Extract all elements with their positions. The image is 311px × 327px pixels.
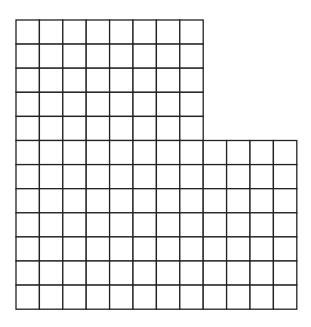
grid-cell	[63, 116, 86, 140]
grid-cell	[63, 44, 86, 68]
grid-cell	[39, 285, 62, 309]
grid-cell	[110, 92, 133, 116]
grid-cell	[16, 189, 39, 213]
grid-cell	[250, 141, 273, 165]
grid-cell	[133, 165, 156, 189]
grid-cell	[227, 261, 250, 285]
grid-cell	[250, 261, 273, 285]
grid-cell	[16, 44, 39, 68]
grid-cell	[39, 213, 62, 237]
grid-cell	[86, 116, 109, 140]
grid-cell	[39, 261, 62, 285]
grid-cell	[63, 285, 86, 309]
grid-cell	[227, 213, 250, 237]
grid-cell	[86, 92, 109, 116]
grid-cell	[133, 68, 156, 92]
grid-cell	[203, 141, 226, 165]
grid-cell	[110, 44, 133, 68]
grid-cell	[39, 92, 62, 116]
grid-cell	[227, 189, 250, 213]
grid-cell	[86, 213, 109, 237]
grid-cell	[86, 261, 109, 285]
grid-cell	[180, 285, 203, 309]
grid-cell	[63, 189, 86, 213]
grid-cell	[16, 285, 39, 309]
grid-cell	[63, 261, 86, 285]
grid-cell	[227, 237, 250, 261]
grid-cell	[133, 261, 156, 285]
grid-cell	[133, 116, 156, 140]
grid-cell	[86, 285, 109, 309]
grid-cell	[16, 116, 39, 140]
grid-cell	[156, 68, 179, 92]
grid-cell	[133, 237, 156, 261]
grid-cell	[110, 116, 133, 140]
grid-cell	[86, 237, 109, 261]
grid-cell	[203, 285, 226, 309]
grid-cell	[227, 165, 250, 189]
grid-cell	[250, 285, 273, 309]
grid-cell	[86, 20, 109, 44]
grid-cell	[273, 165, 296, 189]
grid-cell	[86, 189, 109, 213]
grid-cell	[156, 20, 179, 44]
grid-cell	[63, 20, 86, 44]
grid-cell	[16, 141, 39, 165]
grid-cell	[156, 285, 179, 309]
grid-cell	[39, 20, 62, 44]
grid-cell	[86, 68, 109, 92]
grid-cell	[86, 141, 109, 165]
grid-cell	[39, 189, 62, 213]
grid-cell	[156, 213, 179, 237]
grid-cell	[39, 68, 62, 92]
grid-cell	[133, 189, 156, 213]
grid-cell	[156, 44, 179, 68]
grid-cell	[180, 92, 203, 116]
grid-cell	[110, 189, 133, 213]
grid-cell	[180, 213, 203, 237]
grid-cell	[133, 213, 156, 237]
grid-cell	[16, 261, 39, 285]
grid-cell	[110, 68, 133, 92]
grid-cell	[156, 261, 179, 285]
grid-cell	[156, 165, 179, 189]
grid-cell	[133, 285, 156, 309]
l-shaped-grid	[0, 0, 311, 327]
grid-cell	[203, 261, 226, 285]
grid-cell	[16, 213, 39, 237]
grid-cell	[156, 189, 179, 213]
grid-cell	[133, 44, 156, 68]
grid-cell	[63, 141, 86, 165]
grid-cell	[39, 141, 62, 165]
grid-cell	[63, 68, 86, 92]
grid-cell	[203, 213, 226, 237]
top-section	[16, 20, 203, 141]
grid-cell	[250, 213, 273, 237]
grid-cell	[273, 213, 296, 237]
grid-cell	[16, 68, 39, 92]
grid-cell	[227, 141, 250, 165]
grid-cell	[39, 165, 62, 189]
grid-cell	[16, 237, 39, 261]
grid-cell	[110, 213, 133, 237]
grid-cell	[180, 237, 203, 261]
grid-cell	[16, 20, 39, 44]
grid-cell	[110, 165, 133, 189]
grid-cell	[180, 20, 203, 44]
bottom-section	[16, 141, 297, 310]
grid-cell	[180, 44, 203, 68]
grid-cell	[180, 116, 203, 140]
grid-cell	[63, 92, 86, 116]
grid-cell	[156, 92, 179, 116]
grid-cell	[180, 261, 203, 285]
grid-cell	[133, 92, 156, 116]
grid-cell	[39, 44, 62, 68]
grid-cell	[227, 285, 250, 309]
grid-cell	[273, 261, 296, 285]
grid-cell	[63, 213, 86, 237]
grid-cell	[250, 237, 273, 261]
grid-cell	[110, 20, 133, 44]
grid-cell	[63, 237, 86, 261]
grid-cell	[110, 261, 133, 285]
grid-cell	[273, 237, 296, 261]
